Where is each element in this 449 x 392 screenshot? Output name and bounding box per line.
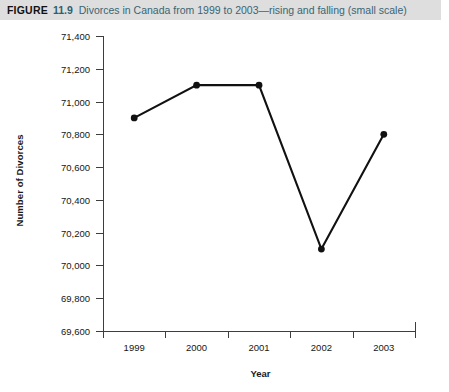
data-point-marker: 2002: 70,100 [318,246,325,253]
data-point-marker: 2001: 71,100 [256,82,263,89]
data-point-marker: 1999: 70,900 [131,115,138,122]
figure-number: 11.9 [53,4,73,16]
figure-caption-text: Divorces in Canada from 1999 to 2003—ris… [79,4,407,16]
data-point-marker: 2000: 71,100 [193,82,200,89]
figure-caption-band: FIGURE 11.9 Divorces in Canada from 1999… [0,0,441,20]
line-plot: 1999: 70,9002000: 71,1002001: 71,1002002… [0,20,449,392]
data-point-markers: 1999: 70,9002000: 71,1002001: 71,1002002… [131,82,387,253]
data-point-marker: 2003: 70,800 [380,131,387,138]
data-line-series [134,85,384,249]
chart-container: Number of Divorces Year 71,40071,20071,0… [0,20,449,392]
figure-label: FIGURE [7,4,48,16]
